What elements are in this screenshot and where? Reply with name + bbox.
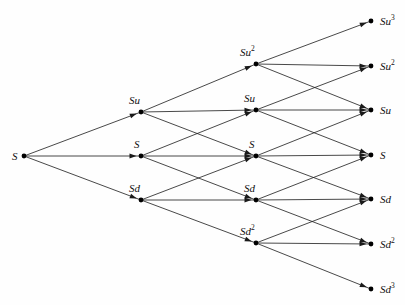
tree-node-label: Sd2 [240,226,255,237]
tree-edge-up [256,199,371,243]
tree-node-dot [139,110,144,115]
tree-node-label: Su [380,105,391,116]
tree-edge-middle [256,64,371,66]
edge-arrowhead [244,237,251,242]
tree-node-label-exponent: 3 [391,13,395,22]
tree-node-dot [369,153,374,158]
edge-arrowhead [359,63,366,68]
tree-edge-down [256,243,371,289]
edge-arrowhead [360,108,367,113]
tree-node-label-exponent: 3 [391,281,395,290]
tree-node-label-base: Sd [380,193,391,205]
tree-node-label: S [380,150,386,161]
edge-arrowhead [359,112,366,117]
edge-arrowhead [359,157,366,162]
tree-edge-down [141,200,256,243]
tree-node-dot [254,241,259,246]
edge-arrowhead [244,194,251,199]
tree-node-label: Su [129,95,140,106]
tree-node-label-base: Su [129,94,140,106]
edge-arrowhead [129,194,136,199]
tree-node-dot [369,19,374,24]
tree-node-label: S [249,139,255,150]
tree-edge-middle [141,110,256,112]
tree-node-label-base: Su [240,46,251,58]
tree-node-label-base: Sd [244,182,255,194]
tree-node-label: Su3 [380,16,395,27]
tree-node-dot [139,154,144,159]
tree-node-dot [369,108,374,113]
tree-node-label-base: S [380,149,386,161]
tree-node-label-exponent: 2 [251,223,255,232]
tree-node-label: Su [244,93,255,104]
tree-node-label: Sd3 [380,284,395,295]
tree-edge-middle [256,199,371,200]
trinomial-tree-figure: SSuSSdSu2SuSSdSd2Su3Su2SuSSdSd2Sd3 [0,0,405,305]
tree-node-label-base: Su [244,92,255,104]
edge-arrowhead [359,283,366,288]
edge-arrowhead [359,201,366,206]
tree-node-label-base: S [134,138,140,150]
tree-node-label: Sd [244,183,255,194]
tree-node-dot [369,242,374,247]
tree-edge-up [256,155,371,200]
tree-node-label-exponent: 2 [251,44,255,53]
tree-node-label-base: Su [380,104,391,116]
edge-arrowhead [359,238,366,243]
tree-node-label-exponent: 2 [391,236,395,245]
tree-node-label: S [12,151,18,162]
tree-edge-up [256,21,371,64]
tree-edge-down [256,200,371,244]
tree-node-dot [369,64,374,69]
tree-node-label: Su2 [380,61,395,72]
edge-group [24,21,371,289]
tree-node-label-base: S [249,138,255,150]
tree-node-dot [254,108,259,113]
edge-arrowhead [244,66,251,71]
edge-arrowhead [359,23,366,28]
tree-node-label-base: Sd [380,283,391,295]
tree-node-label-exponent: 2 [391,58,395,67]
edge-arrowhead [244,158,251,163]
tree-node-label-base: Sd [129,182,140,194]
tree-node-dot [254,198,259,203]
tree-edge-down [24,156,141,200]
tree-node-label-base: Sd [380,238,391,250]
tree-node-label: S [134,139,140,150]
edge-arrowhead [244,150,251,155]
edge-arrowhead [359,149,366,154]
edge-arrowhead [130,154,137,159]
edge-arrowhead [129,114,136,119]
tree-node-label: Sd [380,194,391,205]
tree-node-label: Sd [129,183,140,194]
tree-canvas [0,0,405,305]
node-group [22,19,374,292]
tree-node-dot [139,198,144,203]
tree-node-dot [22,154,27,159]
tree-node-dot [369,197,374,202]
tree-edge-up [141,64,256,112]
tree-edge-middle [256,155,371,156]
tree-node-label: Sd2 [380,239,395,250]
tree-node-label: Su2 [240,47,255,58]
tree-node-label-base: Su [380,15,391,27]
edge-arrowhead [359,193,366,198]
tree-node-dot [254,154,259,159]
tree-node-label-base: Su [380,60,391,72]
tree-edge-up [24,112,141,156]
tree-edge-middle [256,243,371,244]
edge-arrowhead [359,68,366,73]
edge-arrowhead [359,104,366,109]
tree-node-label-base: S [12,150,18,162]
tree-node-dot [254,62,259,67]
edge-arrowhead [244,112,251,117]
tree-node-dot [369,287,374,292]
tree-node-label-base: Sd [240,225,251,237]
